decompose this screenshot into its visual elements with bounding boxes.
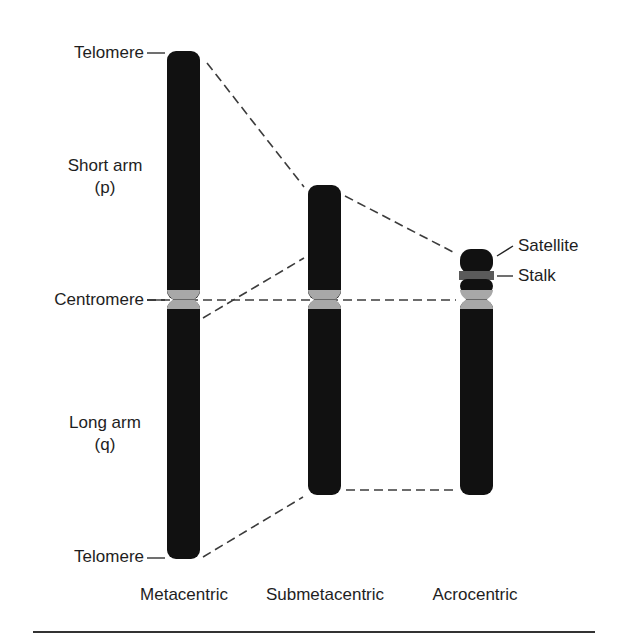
label-short-arm: Short arm [55,156,155,176]
label-centromere: Centromere [10,290,144,310]
acrocentric-satellite [460,249,493,274]
label-stalk: Stalk [518,266,556,286]
chromosome-diagram [0,0,618,634]
metacentric-chromosome [167,51,200,559]
connector-centromere-meta-sub [203,258,304,318]
label-submetacentric: Submetacentric [250,585,400,605]
connector-top-meta-sub [207,63,304,187]
metacentric-p-arm [167,51,200,300]
label-long-arm-q: (q) [55,435,155,455]
submetacentric-q-arm [308,300,341,495]
acrocentric-stalk [459,271,494,280]
acrocentric-chromosome [459,249,494,495]
label-short-arm-p: (p) [55,178,155,198]
label-long-arm: Long arm [55,413,155,433]
submetacentric-chromosome [308,185,341,495]
label-telomere-bottom: Telomere [20,547,144,567]
submetacentric-p-arm [308,185,341,300]
label-telomere-top: Telomere [20,43,144,63]
metacentric-q-arm [167,300,200,559]
label-acrocentric: Acrocentric [415,585,535,605]
connector-top-sub-acro [345,196,453,252]
tick-satellite [497,246,513,256]
connector-bottom-meta-sub [203,497,303,557]
label-metacentric: Metacentric [124,585,244,605]
label-satellite: Satellite [518,236,578,256]
acrocentric-q-arm [460,300,493,495]
